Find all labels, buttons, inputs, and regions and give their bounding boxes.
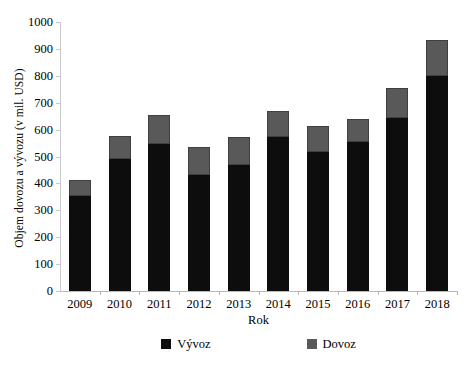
x-tick-label: 2016	[345, 298, 370, 311]
bar-segment-import[interactable]	[267, 111, 289, 137]
y-tick-mark	[56, 76, 60, 77]
y-tick-mark	[56, 183, 60, 184]
bar-segment-export[interactable]	[148, 144, 170, 291]
x-tick-label: 2011	[147, 298, 172, 311]
plot-area: 01002003004005006007008009001000 2009201…	[60, 22, 457, 291]
bar-segment-import[interactable]	[307, 126, 329, 152]
y-tick-mark	[56, 103, 60, 104]
bar-segment-import[interactable]	[148, 115, 170, 145]
bar-group[interactable]	[69, 180, 91, 291]
y-tick-mark	[56, 130, 60, 131]
x-tick-label: 2010	[107, 298, 132, 311]
bar-segment-import[interactable]	[69, 180, 91, 197]
bar-segment-export[interactable]	[307, 152, 329, 291]
bar-group[interactable]	[109, 136, 131, 291]
y-tick-mark	[56, 22, 60, 23]
stacked-bar-chart: Objem dovozu a vývozu (v mil. USD) 01002…	[0, 0, 468, 367]
y-tick-mark	[56, 291, 60, 292]
legend-label: Vývoz	[177, 338, 210, 351]
y-tick-label: 600	[34, 123, 53, 136]
x-tick-mark	[338, 291, 339, 295]
bar-group[interactable]	[386, 88, 408, 291]
y-tick-mark	[56, 210, 60, 211]
bar-group[interactable]	[267, 111, 289, 291]
bar-group[interactable]	[228, 137, 250, 291]
y-tick-label: 300	[34, 204, 53, 217]
x-axis-title: Rok	[60, 313, 457, 328]
bar-segment-export[interactable]	[386, 118, 408, 292]
x-tick-mark	[298, 291, 299, 295]
legend-swatch-export-icon	[161, 339, 171, 349]
bar-segment-import[interactable]	[386, 88, 408, 118]
y-tick-label: 800	[34, 70, 53, 83]
y-tick-mark	[56, 49, 60, 50]
bar-segment-import[interactable]	[109, 136, 131, 158]
x-tick-mark	[179, 291, 180, 295]
x-tick-mark	[417, 291, 418, 295]
x-tick-mark	[259, 291, 260, 295]
y-tick-mark	[56, 237, 60, 238]
chart-legend: VývozDovoz	[60, 338, 457, 351]
bar-segment-import[interactable]	[188, 147, 210, 175]
bar-segment-export[interactable]	[426, 76, 448, 291]
bar-segment-export[interactable]	[228, 165, 250, 291]
bar-segment-export[interactable]	[347, 142, 369, 291]
bar-segment-export[interactable]	[188, 175, 210, 291]
legend-label: Dovoz	[323, 338, 356, 351]
bar-segment-export[interactable]	[109, 159, 131, 291]
x-tick-mark	[219, 291, 220, 295]
bar-group[interactable]	[347, 119, 369, 291]
x-tick-mark	[378, 291, 379, 295]
bar-segment-export[interactable]	[69, 196, 91, 291]
x-tick-label: 2013	[226, 298, 251, 311]
bar-segment-import[interactable]	[426, 40, 448, 76]
x-tick-mark	[139, 291, 140, 295]
y-axis-line	[60, 22, 61, 291]
y-tick-label: 400	[34, 177, 53, 190]
y-tick-label: 700	[34, 96, 53, 109]
y-tick-label: 1000	[28, 16, 53, 29]
y-tick-label: 900	[34, 43, 53, 56]
bar-group[interactable]	[148, 115, 170, 291]
bar-segment-export[interactable]	[267, 137, 289, 291]
legend-entry[interactable]: Vývoz	[161, 338, 210, 351]
bar-segment-import[interactable]	[228, 137, 250, 165]
x-tick-label: 2018	[425, 298, 450, 311]
bar-group[interactable]	[307, 126, 329, 291]
y-tick-label: 100	[34, 258, 53, 271]
x-tick-mark	[457, 291, 458, 295]
y-tick-mark	[56, 264, 60, 265]
legend-entry[interactable]: Dovoz	[307, 338, 356, 351]
x-tick-label: 2012	[186, 298, 211, 311]
bar-segment-import[interactable]	[347, 119, 369, 142]
y-tick-label: 200	[34, 231, 53, 244]
y-axis-title: Objem dovozu a vývozu (v mil. USD)	[8, 23, 30, 293]
bar-group[interactable]	[188, 147, 210, 291]
y-tick-label: 500	[34, 150, 53, 163]
x-tick-label: 2015	[306, 298, 331, 311]
y-tick-label: 0	[47, 285, 53, 298]
x-tick-label: 2014	[266, 298, 291, 311]
x-tick-label: 2017	[385, 298, 410, 311]
bar-group[interactable]	[426, 40, 448, 292]
legend-swatch-import-icon	[307, 339, 317, 349]
y-tick-mark	[56, 157, 60, 158]
x-tick-label: 2009	[67, 298, 92, 311]
x-tick-mark	[100, 291, 101, 295]
